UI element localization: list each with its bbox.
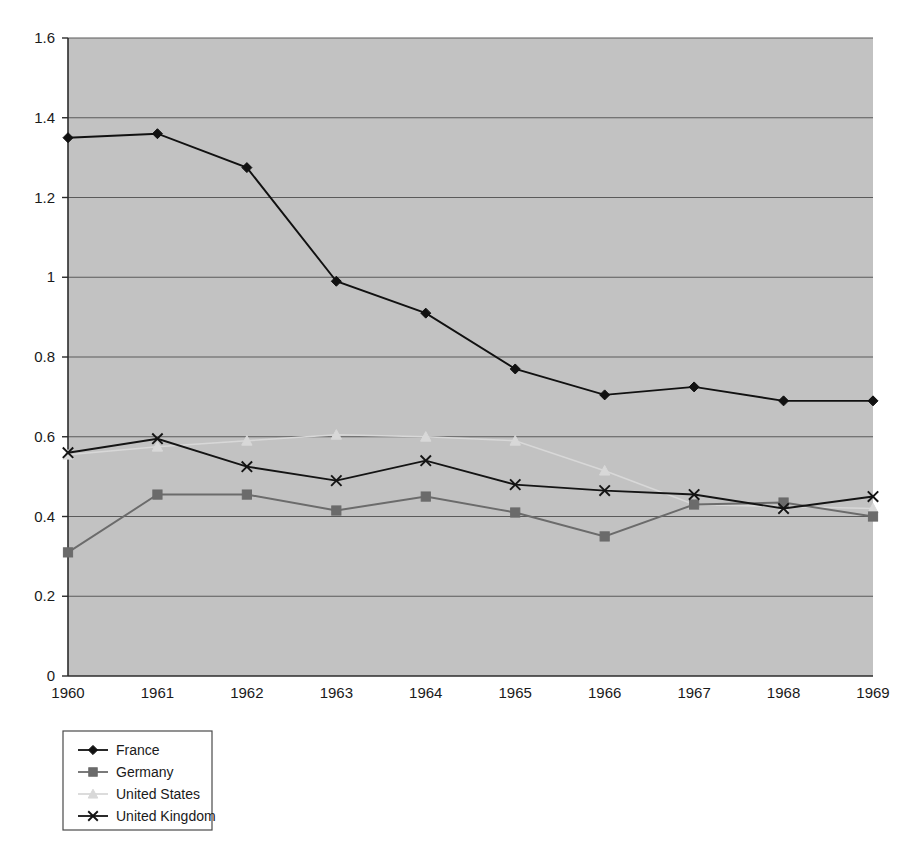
- square-marker: [690, 500, 699, 509]
- line-chart: 00.20.40.60.811.21.41.6 1960196119621963…: [0, 0, 904, 853]
- x-tick-label: 1969: [856, 684, 889, 701]
- x-tick-label: 1960: [51, 684, 84, 701]
- square-marker: [89, 768, 97, 776]
- y-tick-label: 0.2: [34, 587, 55, 604]
- x-tick-label: 1966: [588, 684, 621, 701]
- square-marker: [332, 506, 341, 515]
- y-tick-label: 0.4: [34, 508, 55, 525]
- square-marker: [63, 548, 72, 557]
- y-tick-label: 1.4: [34, 109, 55, 126]
- square-marker: [511, 508, 520, 517]
- x-tick-label: 1962: [230, 684, 263, 701]
- square-marker: [600, 532, 609, 541]
- legend-label: United Kingdom: [116, 808, 216, 824]
- y-tick-label: 1: [47, 268, 55, 285]
- legend-label: France: [116, 742, 160, 758]
- y-tick-label: 0: [47, 667, 55, 684]
- y-tick-label: 0.8: [34, 348, 55, 365]
- y-tick-label: 0.6: [34, 428, 55, 445]
- x-tick-label: 1968: [767, 684, 800, 701]
- square-marker: [868, 512, 877, 521]
- y-tick-label: 1.2: [34, 189, 55, 206]
- legend-label: United States: [116, 786, 200, 802]
- legend-label: Germany: [116, 764, 174, 780]
- square-marker: [153, 490, 162, 499]
- x-tick-label: 1964: [409, 684, 442, 701]
- x-tick-label: 1967: [677, 684, 710, 701]
- x-tick-label: 1963: [320, 684, 353, 701]
- x-tick-label: 1961: [141, 684, 174, 701]
- square-marker: [421, 492, 430, 501]
- chart-canvas: 00.20.40.60.811.21.41.6 1960196119621963…: [0, 0, 904, 853]
- y-tick-label: 1.6: [34, 29, 55, 46]
- legend: FranceGermanyUnited StatesUnited Kingdom: [63, 731, 216, 830]
- square-marker: [242, 490, 251, 499]
- x-tick-label: 1965: [499, 684, 532, 701]
